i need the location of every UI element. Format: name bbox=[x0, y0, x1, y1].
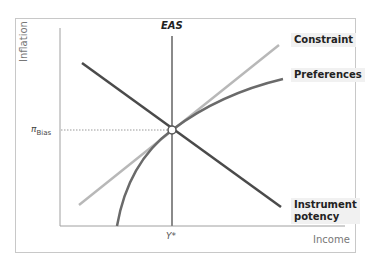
x-axis-label: Income bbox=[313, 234, 350, 245]
instrument-potency-label: Instrument potency bbox=[291, 198, 360, 224]
eas-label: EAS bbox=[161, 20, 183, 31]
instrument-label-line2: potency bbox=[294, 211, 339, 222]
preferences-label: Preferences bbox=[291, 68, 365, 82]
y-star-tick-label: Y* bbox=[166, 231, 176, 241]
y-axis-label: Inflation bbox=[18, 21, 29, 62]
constraint-label: Constraint bbox=[291, 33, 356, 47]
instrument-potency-line bbox=[82, 63, 281, 207]
equilibrium-point bbox=[168, 126, 176, 134]
preferences-curve bbox=[117, 79, 283, 226]
bias-subscript: Bias bbox=[36, 129, 51, 137]
instrument-label-line1: Instrument bbox=[294, 199, 357, 210]
pi-bias-tick-label: πBias bbox=[31, 124, 51, 137]
